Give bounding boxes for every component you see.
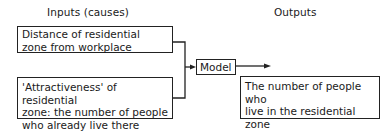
output-text: live in the residential (245, 105, 375, 118)
input-text: zone from workplace (22, 41, 168, 54)
input-text: 'Attractiveness' of residential (22, 81, 168, 106)
input-text: zone: the number of people (22, 106, 168, 119)
output-text: zone (245, 118, 375, 131)
outputs-heading: Outputs (274, 6, 317, 18)
output-box: The number of people who live in the res… (240, 76, 380, 119)
input-box-attractiveness: 'Attractiveness' of residential zone: th… (17, 77, 173, 119)
input-text: who already live there (22, 119, 168, 132)
input-box-distance: Distance of residential zone from workpl… (17, 26, 173, 53)
output-text: The number of people who (245, 80, 375, 105)
model-box: Model (196, 59, 236, 75)
model-label: Model (200, 61, 232, 74)
input-text: Distance of residential (22, 28, 168, 41)
inputs-heading: Inputs (causes) (47, 6, 129, 18)
arrowhead-icon (264, 64, 271, 69)
